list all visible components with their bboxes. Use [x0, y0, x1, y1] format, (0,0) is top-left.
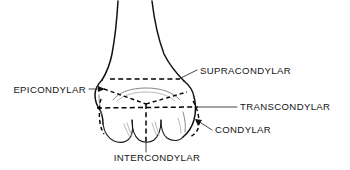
lateral-epicondyle-outline	[183, 81, 196, 137]
shading-medial	[124, 124, 130, 137]
arrow-head-epicondylar	[98, 86, 105, 92]
humerus-figure-svg: SUPRACONDYLAR EPICONDYLAR TRANSCONDYLAR …	[0, 0, 350, 170]
epicondylar-fracture-line-right	[146, 92, 187, 104]
medial-condyle-lobe	[103, 120, 133, 142]
leader-dot-transcondylar	[196, 106, 198, 108]
shading-lateral-edge	[183, 112, 185, 132]
label-condylar: CONDYLAR	[215, 124, 271, 135]
anatomical-diagram: SUPRACONDYLAR EPICONDYLAR TRANSCONDYLAR …	[0, 0, 350, 170]
label-intercondylar: INTERCONDYLAR	[114, 152, 201, 163]
humerus-shaft-right-cortex	[152, 1, 184, 81]
fracture-level-lines	[97, 79, 199, 142]
label-supracondylar: SUPRACONDYLAR	[200, 65, 291, 76]
leader-supracondylar	[179, 70, 197, 79]
label-transcondylar: TRANSCONDYLAR	[240, 101, 330, 112]
label-epicondylar: EPICONDYLAR	[13, 84, 86, 95]
olecranon-fossa-arc	[113, 88, 180, 100]
shading-medial-2	[127, 123, 132, 136]
shading-lateral	[178, 118, 181, 133]
humerus-shaft-left-cortex	[102, 1, 118, 80]
